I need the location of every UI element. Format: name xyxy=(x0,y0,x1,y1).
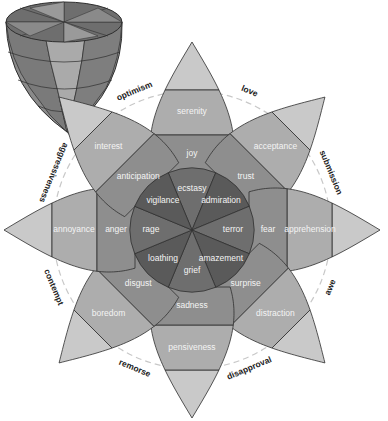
emotion-label-fear: fear xyxy=(261,224,276,234)
emotion-label-sadness: sadness xyxy=(176,300,208,310)
emotion-label-vigilance: vigilance xyxy=(146,195,179,205)
emotion-label-anger: anger xyxy=(105,224,127,234)
dyad-label-disapproval: disapproval xyxy=(225,354,273,381)
emotion-label-grief: grief xyxy=(184,265,201,275)
emotion-label-serenity: serenity xyxy=(177,106,208,116)
emotion-label-disgust: disgust xyxy=(125,278,153,288)
emotion-label-distraction: distraction xyxy=(256,308,295,318)
emotion-label-terror: terror xyxy=(223,224,243,234)
dyad-label-love: love xyxy=(240,83,260,99)
petals-group: ecstasyjoyserenityadmirationtrustaccepta… xyxy=(4,42,380,418)
petal-band-tip xyxy=(332,203,380,257)
dyad-label-awe: awe xyxy=(322,278,337,297)
petal-band-tip xyxy=(165,42,219,90)
dyad-label-contempt: contempt xyxy=(42,268,66,307)
emotion-label-pensiveness: pensiveness xyxy=(168,342,215,352)
dyad-label-optimism: optimism xyxy=(115,79,154,103)
emotion-label-loathing: loathing xyxy=(148,253,178,263)
emotion-label-surprise: surprise xyxy=(231,278,262,288)
dyad-label-submission: submission xyxy=(318,149,345,196)
emotion-label-amazement: amazement xyxy=(199,253,244,263)
emotion-label-annoyance: annoyance xyxy=(53,224,95,234)
emotion-label-trust: trust xyxy=(237,171,254,181)
petal-band-tip xyxy=(4,203,52,257)
emotion-label-joy: joy xyxy=(186,148,199,158)
emotion-label-boredom: boredom xyxy=(92,308,126,318)
emotion-label-apprehension: apprehension xyxy=(284,224,336,234)
emotion-label-interest: interest xyxy=(95,141,124,151)
dyad-label-remorse: remorse xyxy=(117,357,152,379)
emotion-label-anticipation: anticipation xyxy=(117,171,160,181)
emotion-label-admiration: admiration xyxy=(201,195,241,205)
emotion-label-acceptance: acceptance xyxy=(254,141,298,151)
emotion-label-rage: rage xyxy=(142,224,159,234)
petal-band-tip xyxy=(165,370,219,418)
emotion-label-ecstasy: ecstasy xyxy=(178,183,208,193)
emotion-wheel-diagram: ecstasyjoyserenityadmirationtrustaccepta… xyxy=(0,0,388,421)
